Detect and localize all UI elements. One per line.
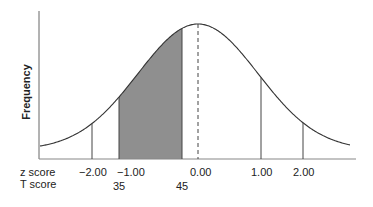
z-tick-minus-2: −2.00 bbox=[79, 166, 107, 178]
t-score-row-label: T score bbox=[20, 178, 56, 190]
t-tick-45: 45 bbox=[176, 180, 188, 192]
normal-curve-chart bbox=[0, 0, 373, 207]
z-score-row-label: z score bbox=[20, 166, 55, 178]
shaded-area bbox=[119, 28, 182, 159]
t-tick-35: 35 bbox=[113, 180, 125, 192]
z-tick-plus-2: 2.00 bbox=[293, 166, 314, 178]
z-tick-0: 0.00 bbox=[190, 166, 211, 178]
z-tick-minus-1: −1.00 bbox=[117, 166, 145, 178]
z-tick-plus-1: 1.00 bbox=[251, 166, 272, 178]
y-axis-label: Frequency bbox=[20, 62, 32, 122]
